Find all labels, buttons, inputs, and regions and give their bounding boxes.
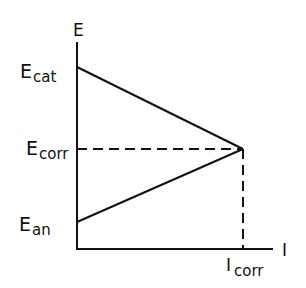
y-axis-label: E [73,20,84,40]
evans-diagram: E I Ecat Ecorr Ean Icorr [0,0,306,288]
e-cat-label: Ecat [20,60,56,86]
e-corr-label: Ecorr [26,137,69,163]
x-axis-label: I [282,240,287,260]
e-an-label: Ean [19,213,51,239]
i-corr-label: Icorr [226,255,264,280]
anodic-line [77,149,243,222]
cathodic-line [77,67,243,149]
